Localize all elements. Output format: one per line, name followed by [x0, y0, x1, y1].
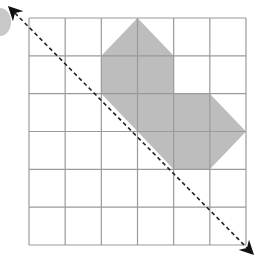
grid: [29, 18, 246, 245]
corner-marker: [0, 8, 11, 36]
reflection-diagram: [0, 0, 261, 262]
